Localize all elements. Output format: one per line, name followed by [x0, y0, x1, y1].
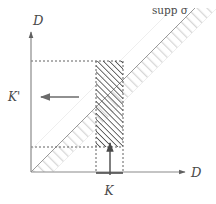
supp-sigma-label: supp σ	[152, 4, 188, 16]
intersection-region	[96, 61, 123, 147]
band-lower-edge	[31, 9, 216, 194]
diagram-canvas: D D supp σ K' K	[0, 0, 216, 204]
y-axis-label: D	[32, 13, 44, 28]
intersection-region-fill	[96, 61, 123, 147]
x-axis-label: D	[190, 165, 202, 180]
y-tick-label-kprime: K'	[7, 90, 20, 104]
figure-root: D D supp σ K' K	[0, 0, 216, 204]
x-tick-label-k: K	[104, 184, 115, 198]
